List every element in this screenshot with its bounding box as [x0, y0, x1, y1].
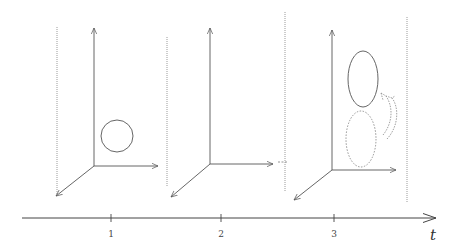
panel-3	[294, 17, 407, 203]
panel-2	[167, 12, 288, 197]
panel-3-y-axis	[294, 170, 332, 200]
panel-3-ellipse-current	[348, 51, 378, 107]
tick-label-2: 2	[218, 229, 224, 239]
panel-2-y-axis	[171, 164, 210, 197]
panel-1-circle	[101, 120, 133, 152]
panel-1-y-axis	[56, 166, 94, 196]
timeline: 1 2 3 t	[22, 214, 437, 244]
diagram-canvas: 1 2 3 t	[0, 0, 456, 252]
time-axis-label: t	[430, 226, 437, 244]
tick-label-1: 1	[108, 229, 114, 239]
panel-3-ellipse-previous-dashed	[346, 111, 376, 167]
panel-3-curved-motion-arrow-icon	[381, 93, 397, 139]
panel-1	[56, 27, 158, 196]
tick-label-3: 3	[331, 229, 337, 239]
